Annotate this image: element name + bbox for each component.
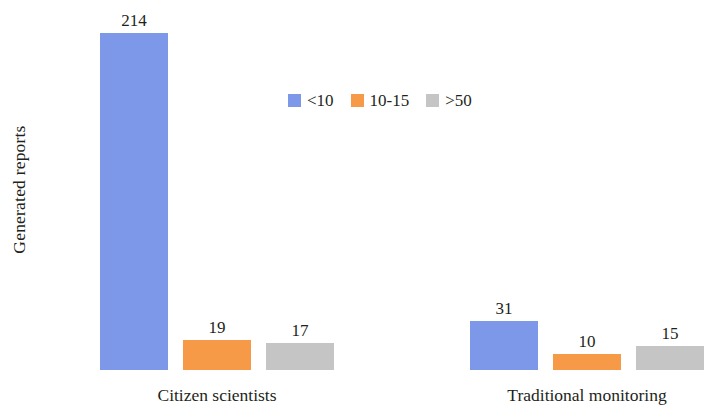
bar-fill-lt10 xyxy=(470,321,538,370)
legend-item-10-15[interactable]: 10-15 xyxy=(351,92,410,109)
category-label-citizen-scientists: Citizen scientists xyxy=(100,386,334,405)
bar-fill-gt50 xyxy=(636,346,704,370)
bar-fill-10-15 xyxy=(183,340,251,370)
bar-value-label: 214 xyxy=(121,12,147,29)
legend-swatch-gt50 xyxy=(426,94,439,107)
bar-citizen-gt50[interactable]: 17 xyxy=(266,343,334,370)
bar-fill-gt50 xyxy=(266,343,334,370)
bar-traditional-10-15[interactable]: 10 xyxy=(553,354,621,370)
legend-swatch-10-15 xyxy=(351,94,364,107)
legend-label-10-15: 10-15 xyxy=(370,92,410,109)
category-label-traditional-monitoring: Traditional monitoring xyxy=(470,386,704,405)
legend: <10 10-15 >50 xyxy=(288,92,472,109)
plot-area: 214 19 17 31 10 15 Citizen scientists Tr… xyxy=(38,0,700,414)
legend-item-lt10[interactable]: <10 xyxy=(288,92,334,109)
bar-value-label: 19 xyxy=(209,319,226,336)
legend-label-gt50: >50 xyxy=(445,92,472,109)
legend-item-gt50[interactable]: >50 xyxy=(426,92,472,109)
legend-label-lt10: <10 xyxy=(307,92,334,109)
bar-fill-lt10 xyxy=(100,33,168,370)
bar-value-label: 10 xyxy=(579,333,596,350)
bar-traditional-lt10[interactable]: 31 xyxy=(470,321,538,370)
legend-swatch-lt10 xyxy=(288,94,301,107)
bar-traditional-gt50[interactable]: 15 xyxy=(636,346,704,370)
bar-citizen-lt10[interactable]: 214 xyxy=(100,33,168,370)
bar-value-label: 15 xyxy=(662,325,679,342)
bar-value-label: 17 xyxy=(292,322,309,339)
y-axis-title-label: Generated reports xyxy=(9,125,30,253)
y-axis-title: Generated reports xyxy=(0,0,38,414)
bar-value-label: 31 xyxy=(496,300,513,317)
bar-fill-10-15 xyxy=(553,354,621,370)
bar-citizen-10-15[interactable]: 19 xyxy=(183,340,251,370)
